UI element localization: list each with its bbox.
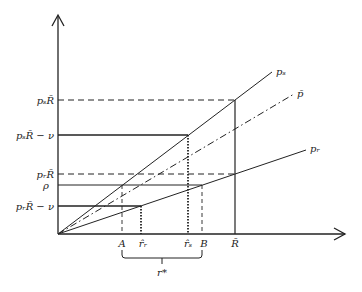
label-ps-R-minus-nu: pₛR̄ − ν [16,130,54,141]
label-A: A [117,238,125,249]
label-B: B [199,238,207,249]
label-pr-R: pᵣR̄ [37,169,55,180]
label-pr-R-minus-nu: pᵣR̄ − ν [16,201,54,212]
label-r-hat-s: r̂ₛ [184,238,192,249]
ps-line [58,72,272,234]
label-rho: ρ [42,180,49,191]
label-R-bar: R̄ [230,238,239,249]
label-ps-R: pₛR̄ [37,95,55,106]
label-ps: pₛ [276,66,286,77]
label-r-star: r* [157,267,167,278]
pr-line [58,150,306,234]
vertical-guides [122,100,235,234]
p-bar-line [58,94,294,234]
diagram-canvas: pₛR̄ pₛR̄ − ν pᵣR̄ ρ pᵣR̄ − ν pₛ p̄ pᵣ A… [0,0,362,292]
label-p-bar: p̄ [297,88,304,99]
label-r-hat-r: r̂ᵣ [139,238,148,249]
label-pr: pᵣ [310,143,320,154]
r-star-brace [122,250,202,264]
horizontal-levels [58,100,235,206]
rays [58,72,306,234]
